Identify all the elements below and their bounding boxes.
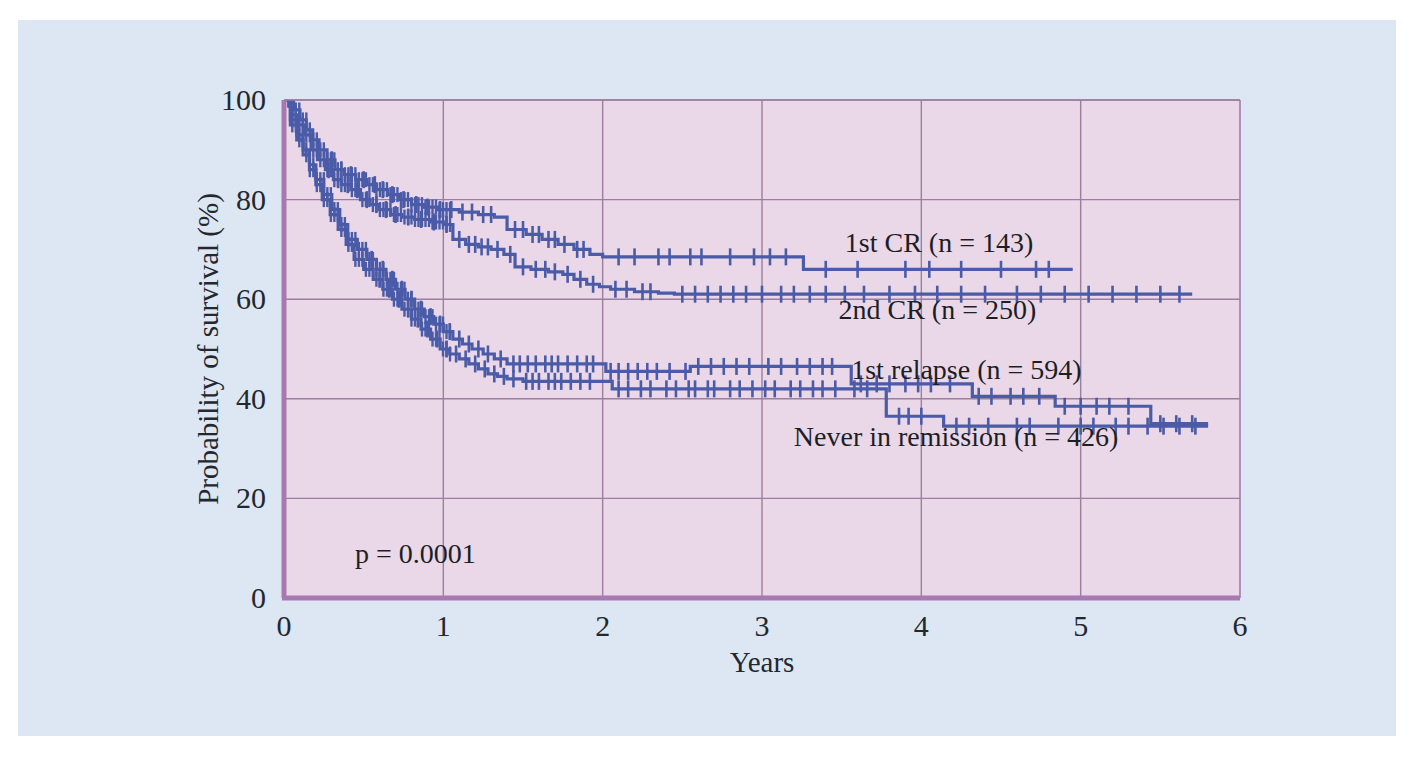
x-tick-label: 4 <box>914 609 929 642</box>
series-label-3: 1st relapse (n = 594) <box>851 354 1081 385</box>
p-value-annotation: p = 0.0001 <box>355 538 476 569</box>
y-axis-title: Probability of survival (%) <box>192 193 225 505</box>
y-tick-label: 0 <box>251 581 266 614</box>
y-tick-label: 100 <box>221 83 266 116</box>
figure-root: 020406080100 0123456 Probability of surv… <box>0 0 1422 762</box>
x-tick-label: 5 <box>1073 609 1088 642</box>
x-axis-title: Years <box>730 646 795 678</box>
y-tick-label: 80 <box>236 183 266 216</box>
x-tick-label: 1 <box>436 609 451 642</box>
y-tick-label: 20 <box>236 481 266 514</box>
x-tick-label: 0 <box>277 609 292 642</box>
series-label-4: Never in remission (n = 426) <box>794 421 1119 452</box>
y-axis-tick-labels: 020406080100 <box>221 83 266 614</box>
series-label-1: 1st CR (n = 143) <box>845 227 1033 258</box>
survival-chart: 020406080100 0123456 Probability of surv… <box>0 0 1422 762</box>
series-label-2: 2nd CR (n = 250) <box>838 294 1036 325</box>
x-tick-label: 3 <box>755 609 770 642</box>
x-axis-tick-labels: 0123456 <box>277 609 1248 642</box>
y-tick-label: 40 <box>236 382 266 415</box>
y-tick-label: 60 <box>236 282 266 315</box>
x-tick-label: 6 <box>1233 609 1248 642</box>
x-tick-label: 2 <box>595 609 610 642</box>
